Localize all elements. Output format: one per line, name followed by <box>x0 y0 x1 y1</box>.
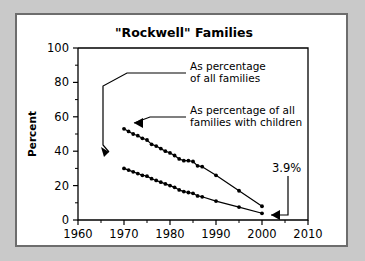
series-marker <box>159 147 163 151</box>
x-tick-label-1990: 1990 <box>201 227 230 241</box>
series-marker <box>187 191 191 195</box>
series-0 <box>122 127 264 208</box>
y-axis-title: Percent <box>26 111 38 157</box>
y-tick-label-100: 100 <box>47 41 69 55</box>
annotation-with-children-line-1: As percentage of all <box>190 104 295 116</box>
series-marker <box>200 195 204 199</box>
y-tick-label-80: 80 <box>54 75 69 89</box>
y-tick-label-20: 20 <box>54 179 69 193</box>
y-tick-label-60: 60 <box>54 110 69 124</box>
series-marker <box>177 157 181 161</box>
series-marker <box>177 188 181 192</box>
series-marker <box>168 184 172 188</box>
series-layer <box>122 127 264 215</box>
arrow-head-all-families <box>101 147 109 157</box>
series-marker <box>237 205 241 209</box>
y-axis-tick-labels: 020406080100 <box>47 41 69 227</box>
series-marker <box>196 194 200 198</box>
series-marker <box>168 151 172 155</box>
series-marker <box>145 174 149 178</box>
chart-canvas: "Rockwell" Families Percent 020406080100… <box>0 0 365 261</box>
x-axis-tick-labels: 196019701980199020002010 <box>63 227 322 241</box>
chart-title: "Rockwell" Families <box>115 25 253 40</box>
series-marker <box>196 164 200 168</box>
series-marker <box>154 144 158 148</box>
figure-root: "Rockwell" Families Percent 020406080100… <box>0 0 365 261</box>
series-marker <box>154 179 158 183</box>
series-marker <box>141 173 145 177</box>
series-marker <box>150 177 154 181</box>
series-marker <box>173 154 177 158</box>
x-tick-label-2010: 2010 <box>293 227 322 241</box>
series-marker <box>191 191 195 195</box>
annotation-with-children-line-2: families with children <box>190 116 302 128</box>
y-tick-label-40: 40 <box>54 144 69 158</box>
annotation-all-families-line-2: of all families <box>190 72 260 84</box>
series-marker <box>187 159 191 163</box>
series-marker <box>136 172 140 176</box>
series-marker <box>214 173 218 177</box>
series-marker <box>260 204 264 208</box>
series-marker <box>122 127 126 131</box>
leader-final-value <box>271 176 288 220</box>
series-marker <box>182 159 186 163</box>
series-marker <box>141 136 145 140</box>
x-tick-label-1960: 1960 <box>63 227 92 241</box>
series-marker <box>159 180 163 184</box>
callout-final-value-label: 3.9% <box>272 161 301 175</box>
series-marker <box>164 182 168 186</box>
series-marker <box>182 190 186 194</box>
series-marker <box>214 199 218 203</box>
series-1 <box>122 167 264 216</box>
y-tick-label-0: 0 <box>62 213 69 227</box>
series-marker <box>122 167 126 171</box>
annotation-all-families-line-1: As percentage <box>190 60 266 72</box>
x-tick-label-1970: 1970 <box>109 227 138 241</box>
leader-families-with-children <box>134 117 186 128</box>
series-marker <box>136 134 140 138</box>
x-tick-label-1980: 1980 <box>155 227 184 241</box>
series-marker <box>127 130 131 134</box>
leader-all-families <box>101 73 186 157</box>
x-tick-label-2000: 2000 <box>247 227 276 241</box>
series-marker <box>131 170 135 174</box>
series-line-1 <box>124 168 262 213</box>
series-marker <box>260 211 264 215</box>
series-marker <box>127 168 131 172</box>
arrow-head-with-children <box>134 118 143 128</box>
series-marker <box>200 165 204 169</box>
series-marker <box>164 149 168 153</box>
series-marker <box>237 189 241 193</box>
series-marker <box>173 185 177 189</box>
series-marker <box>131 132 135 136</box>
series-marker <box>191 160 195 164</box>
series-marker <box>145 138 149 142</box>
series-marker <box>150 142 154 146</box>
arrow-head-final-value <box>271 210 280 220</box>
